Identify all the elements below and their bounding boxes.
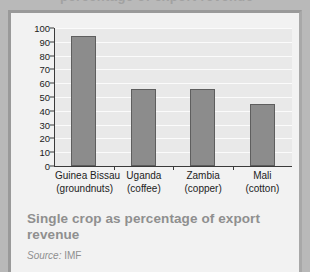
category-commodity: (coffee) — [114, 183, 173, 196]
x-axis-category-label: Uganda(coffee) — [114, 170, 173, 195]
figure-panel: 0102030405060708090100 Guinea Bissau(gro… — [8, 10, 302, 272]
y-axis-tick-label: 80 — [22, 50, 50, 61]
y-axis-line — [54, 28, 55, 167]
x-axis-category-label: Mali(cotton) — [233, 170, 292, 195]
y-axis-tick-label: 90 — [22, 36, 50, 47]
bar — [71, 36, 96, 166]
clipped-headline-text: percentage of export revenue — [60, 0, 253, 4]
x-axis-labels: Guinea Bissau(groundnuts)Uganda(coffee)Z… — [55, 170, 292, 198]
bar — [131, 89, 156, 166]
bar — [250, 104, 275, 166]
source-value: IMF — [64, 250, 81, 261]
category-commodity: (copper) — [174, 183, 233, 196]
category-commodity: (cotton) — [233, 183, 292, 196]
category-name: Mali — [253, 170, 271, 181]
category-name: Uganda — [126, 170, 161, 181]
y-axis-tick-label: 0 — [22, 161, 50, 172]
y-axis-tick-label: 70 — [22, 64, 50, 75]
plot-area — [54, 28, 292, 166]
caption-block: Single crop as percentage of export reve… — [27, 211, 287, 261]
source-label: Source: — [27, 250, 61, 261]
y-axis-tick-label: 10 — [22, 147, 50, 158]
chart-source: Source: IMF — [27, 250, 287, 261]
y-axis-tick-label: 20 — [22, 133, 50, 144]
category-commodity: (groundnuts) — [55, 183, 114, 196]
category-name: Zambia — [186, 170, 219, 181]
y-axis-tick-label: 100 — [22, 23, 50, 34]
gridline — [54, 28, 292, 29]
y-axis-tick-label: 50 — [22, 92, 50, 103]
chart-title: Single crop as percentage of export reve… — [27, 211, 287, 243]
clipped-headline-strip: percentage of export revenue — [0, 0, 310, 10]
bar — [190, 89, 215, 166]
y-axis-tick-label: 40 — [22, 105, 50, 116]
y-axis-tick-label: 30 — [22, 119, 50, 130]
bar-chart: 0102030405060708090100 Guinea Bissau(gro… — [22, 22, 294, 192]
y-axis-tick-label: 60 — [22, 78, 50, 89]
category-name: Guinea Bissau — [55, 170, 120, 181]
x-axis-category-label: Guinea Bissau(groundnuts) — [55, 170, 114, 195]
x-axis-category-label: Zambia(copper) — [174, 170, 233, 195]
